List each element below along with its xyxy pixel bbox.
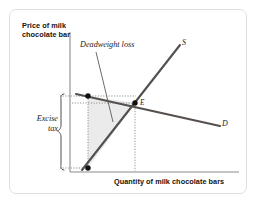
deadweight-loss-label: Deadweight loss — [80, 40, 134, 49]
producer-price-point-marker — [85, 165, 90, 170]
equilibrium-point-label: E — [140, 99, 144, 107]
consumer-price-point-marker — [85, 93, 90, 98]
excise-tax-brace — [58, 94, 65, 170]
demand-curve-label: D — [222, 119, 228, 128]
y-axis-title: Price of milk chocolate bar — [22, 21, 84, 40]
figure-root: Price of milk chocolate bar Quantity of … — [0, 0, 257, 204]
excise-tax-label: Excise tax — [16, 114, 58, 134]
equilibrium-point-marker — [132, 100, 137, 105]
supply-curve-label: S — [182, 38, 186, 47]
x-axis-title: Quantity of milk chocolate bars — [114, 177, 244, 186]
